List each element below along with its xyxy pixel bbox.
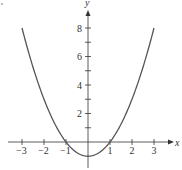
y-tick-label: 4 — [77, 80, 82, 91]
axes — [8, 10, 174, 168]
y-tick-label: 2 — [77, 108, 82, 119]
x-tick-label: −3 — [16, 145, 27, 156]
x-tick-label: 2 — [130, 145, 135, 156]
y-tick-label: 8 — [77, 23, 82, 34]
x-tick-label: −2 — [38, 145, 49, 156]
parabola-chart: −3−2−11232468 x y — [0, 0, 182, 170]
y-tick-label: 6 — [77, 51, 82, 62]
x-tick-label: 3 — [152, 145, 157, 156]
x-tick-label: −1 — [60, 145, 71, 156]
x-axis-arrow-icon — [168, 140, 174, 145]
x-tick-label: 1 — [108, 145, 113, 156]
corner-dot — [1, 3, 3, 5]
y-axis-arrow-icon — [86, 10, 91, 16]
x-axis-label: x — [174, 137, 180, 148]
y-axis-label: y — [84, 0, 90, 8]
